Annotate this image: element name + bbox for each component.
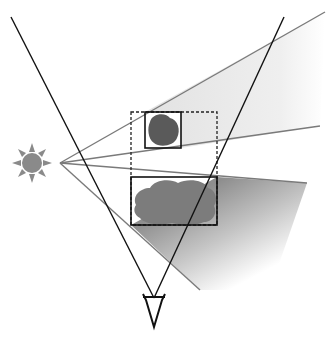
small-object <box>148 114 178 146</box>
eye-icon <box>143 294 165 327</box>
sun-icon <box>12 143 52 183</box>
diagram-svg <box>0 0 329 340</box>
diagram-canvas <box>0 0 329 340</box>
large-object <box>134 180 216 224</box>
